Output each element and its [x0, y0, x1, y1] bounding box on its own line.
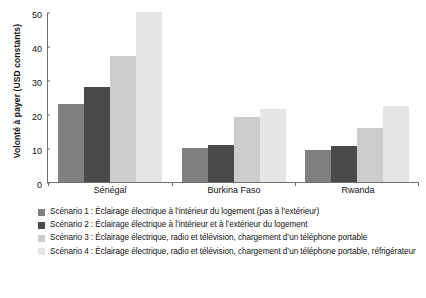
bar-groups [48, 13, 419, 182]
bar [357, 128, 383, 182]
y-axis-tick-label: 50 [32, 10, 47, 20]
x-axis-label: Sénégal [48, 185, 172, 195]
bar-group [48, 13, 172, 182]
bar-chart-figure: Volonté à payer (USD constants) 01020304… [0, 0, 426, 298]
axes: 01020304050 [47, 13, 419, 183]
legend-label: Scénario 4 : Éclairage électrique, radio… [50, 246, 416, 257]
y-axis-tick-label: 40 [32, 44, 47, 54]
bars-container [48, 13, 172, 182]
legend-swatch-icon [38, 222, 45, 229]
bar [383, 106, 409, 183]
bar [84, 87, 110, 182]
y-axis-tick: 40 [32, 38, 47, 56]
bar [208, 145, 234, 182]
bar-group [172, 13, 296, 182]
legend-item[interactable]: Scénario 4 : Éclairage électrique, radio… [38, 246, 422, 257]
legend-swatch-icon [38, 209, 45, 216]
legend-label: Scénario 3 : Éclairage électrique, radio… [50, 232, 367, 243]
x-axis-label: Burkina Faso [172, 185, 296, 195]
y-axis-tick: 30 [32, 72, 47, 90]
bar-group [295, 13, 419, 182]
plot-area: Volonté à payer (USD constants) 01020304… [0, 0, 426, 200]
x-axis-label: Rwanda [296, 185, 420, 195]
bar [110, 56, 136, 182]
legend-swatch-icon [38, 248, 45, 255]
legend-item[interactable]: Scénario 3 : Éclairage électrique, radio… [38, 232, 422, 243]
x-axis-line [47, 182, 419, 183]
y-axis-tick: 50 [32, 4, 47, 22]
chart-legend: Scénario 1 : Éclairage électrique à l’in… [38, 206, 422, 259]
y-axis-tick: 20 [32, 106, 47, 124]
bar [331, 146, 357, 182]
bars-container [172, 13, 296, 182]
y-axis-tick-label: 20 [32, 112, 47, 122]
bar [305, 150, 331, 182]
y-axis-tick: 10 [32, 140, 47, 158]
y-axis-tick-label: 0 [37, 180, 47, 190]
legend-swatch-icon [38, 235, 45, 242]
x-axis-labels: SénégalBurkina FasoRwanda [48, 185, 420, 195]
y-axis-tick: 0 [37, 174, 47, 192]
bar [260, 109, 286, 182]
bars-container [295, 13, 419, 182]
legend-item[interactable]: Scénario 1 : Éclairage électrique à l’in… [38, 206, 422, 217]
bar [182, 148, 208, 182]
y-axis-tick-label: 10 [32, 146, 47, 156]
bar [136, 12, 162, 182]
legend-item[interactable]: Scénario 2 : Éclairage électrique à l’in… [38, 219, 422, 230]
legend-label: Scénario 2 : Éclairage électrique à l’in… [50, 219, 307, 230]
bar [234, 117, 260, 182]
bar [58, 104, 84, 182]
y-axis-title: Volonté à payer (USD constants) [12, 11, 22, 171]
y-axis-tick-label: 30 [32, 78, 47, 88]
legend-label: Scénario 1 : Éclairage électrique à l’in… [50, 206, 319, 217]
